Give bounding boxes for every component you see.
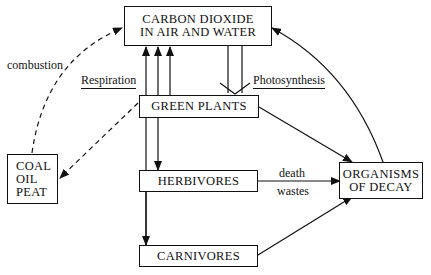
node-green-plants: GREEN PLANTS — [139, 95, 259, 118]
node-fossil-fuels: COAL OIL PEAT — [7, 154, 58, 204]
label-combustion: combustion — [7, 59, 63, 71]
plants-to-fossil-arrow — [60, 103, 138, 178]
plants-to-decay-arrow — [259, 107, 352, 162]
node-fossil-line3: PEAT — [16, 186, 47, 199]
label-wastes: wastes — [277, 185, 309, 197]
node-green-plants-label: GREEN PLANTS — [151, 100, 247, 113]
node-herbivores: HERBIVORES — [139, 170, 258, 192]
decay-to-co2-arrow — [272, 28, 383, 162]
node-decay-line2: OF DECAY — [349, 181, 412, 194]
node-fossil-line1: COAL — [16, 160, 51, 173]
carbon-cycle-diagram: CARBON DIOXIDE IN AIR AND WATER GREEN PL… — [0, 0, 431, 275]
label-death: death — [279, 167, 305, 179]
node-carnivores: CARNIVORES — [139, 245, 258, 267]
node-organisms-of-decay: ORGANISMS OF DECAY — [339, 162, 423, 199]
node-carbon-dioxide: CARBON DIOXIDE IN AIR AND WATER — [124, 6, 272, 46]
node-carnivores-label: CARNIVORES — [157, 250, 240, 263]
node-fossil-line2: OIL — [16, 173, 38, 186]
node-decay-line1: ORGANISMS — [343, 168, 419, 181]
node-herbivores-label: HERBIVORES — [158, 175, 239, 188]
node-carbon-dioxide-line2: IN AIR AND WATER — [140, 26, 256, 39]
label-photosynthesis: Photosynthesis — [253, 74, 325, 89]
label-respiration: Respiration — [81, 74, 136, 89]
combustion-arrow — [32, 28, 122, 153]
carnivores-to-decay-arrow — [258, 197, 352, 255]
